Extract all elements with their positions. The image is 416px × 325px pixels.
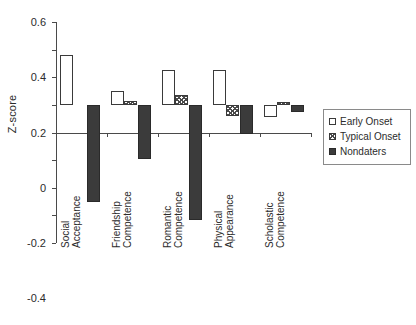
y-tick-label: -0.4 xyxy=(27,292,46,304)
bar-early-onset xyxy=(162,70,175,105)
legend-item: Early Onset xyxy=(329,114,406,128)
y-tick-mark: -0.6 xyxy=(52,188,56,189)
x-category-label-line: Physical xyxy=(213,211,224,248)
legend-item: Nondaters xyxy=(329,144,406,158)
y-tick-label: 0.2 xyxy=(31,127,46,139)
x-category-label-line: Friendship xyxy=(111,201,122,248)
x-category-label-line: Appearance xyxy=(224,194,235,248)
x-tick-mark xyxy=(56,133,57,137)
bar-early-onset xyxy=(60,55,73,105)
y-tick-mark: -1 xyxy=(52,243,56,244)
x-category-label-line: Acceptance xyxy=(71,196,82,248)
y-tick-mark: 0.4 xyxy=(52,50,56,51)
y-tick-label: 0.4 xyxy=(31,71,46,83)
legend-item-label: Early Onset xyxy=(340,116,392,127)
bar-typical-onset xyxy=(124,101,137,104)
x-category-label-line: Scholastic xyxy=(264,202,275,248)
x-category-label-line: Competence xyxy=(122,191,133,248)
bar-nondaters xyxy=(189,105,202,220)
y-tick-mark: 0 xyxy=(52,105,56,106)
legend: Early OnsetTypical OnsetNondaters xyxy=(323,109,411,165)
hatched-square-swatch xyxy=(329,133,336,140)
y-axis-title: Z-score xyxy=(6,84,18,144)
bar-typical-onset xyxy=(226,105,239,116)
bar-nondaters xyxy=(240,105,253,134)
bar-early-onset xyxy=(213,70,226,105)
dark-square-swatch xyxy=(329,148,336,155)
y-tick-mark: 0.6 xyxy=(52,22,56,23)
white-square-swatch xyxy=(329,118,336,125)
y-tick-label: 0 xyxy=(40,182,46,194)
y-tick-label: -0.2 xyxy=(27,237,46,249)
bar-typical-onset xyxy=(175,95,188,105)
bar-early-onset xyxy=(264,105,277,117)
y-tick-label: 0.6 xyxy=(31,16,46,28)
legend-item-label: Nondaters xyxy=(340,146,386,157)
x-tick-mark xyxy=(311,133,312,137)
y-tick-mark: -0.4 xyxy=(52,160,56,161)
bar-chart: Z-score 0.60.40.20-0.2-0.4-0.6-0.8-1 Soc… xyxy=(0,0,416,325)
bar-nondaters xyxy=(138,105,151,159)
bar-nondaters xyxy=(87,105,100,202)
x-tick-mark xyxy=(209,133,210,137)
x-tick-mark xyxy=(107,133,108,137)
bar-nondaters xyxy=(291,105,304,112)
legend-item-label: Typical Onset xyxy=(340,131,401,142)
x-category-label-line: Romantic xyxy=(162,206,173,248)
x-category-label-line: Social xyxy=(60,221,71,248)
x-category-label-line: Competence xyxy=(173,191,184,248)
x-tick-mark xyxy=(260,133,261,137)
legend-item: Typical Onset xyxy=(329,129,406,143)
x-tick-mark xyxy=(158,133,159,137)
bar-typical-onset xyxy=(277,102,290,105)
bar-early-onset xyxy=(111,91,124,105)
y-tick-mark: 0.2 xyxy=(52,77,56,78)
x-category-label-line: Competence xyxy=(275,191,286,248)
y-tick-mark: -0.8 xyxy=(52,215,56,216)
